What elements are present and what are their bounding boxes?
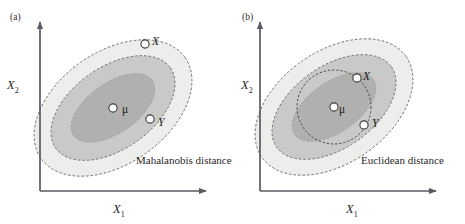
panel-a-tag: (a) bbox=[10, 13, 21, 23]
panel-b-plot bbox=[233, 0, 465, 224]
panel-a-plot bbox=[0, 0, 232, 224]
point-mu-a[interactable] bbox=[109, 104, 117, 112]
point-label-x-a: X bbox=[152, 36, 159, 48]
point-label-mu-a: μ bbox=[122, 104, 128, 116]
panel-b-caption: Euclidean distance bbox=[361, 155, 444, 166]
panel-a-x-axis-label: X1 bbox=[113, 203, 125, 216]
panel-b-y-axis-label: X2 bbox=[241, 79, 253, 92]
point-x-a[interactable] bbox=[141, 40, 149, 48]
panel-a-caption: Mahalanobis distance bbox=[136, 155, 232, 166]
panel-b-x-axis-label-sub: 1 bbox=[354, 210, 358, 219]
panel-b-y-axis-label-text: X bbox=[241, 78, 249, 92]
panel-a-x-axis-label-text: X bbox=[113, 202, 121, 216]
panel-a-y-axis-label: X2 bbox=[7, 79, 19, 92]
point-label-y-a: Y bbox=[158, 117, 164, 129]
panel-b-x-axis-label-text: X bbox=[346, 202, 354, 216]
panel-b-tag: (b) bbox=[242, 13, 253, 23]
panel-a-x-axis-label-sub: 1 bbox=[121, 210, 125, 219]
point-y-b[interactable] bbox=[360, 121, 368, 129]
panel-a-y-axis-label-sub: 2 bbox=[15, 86, 19, 95]
point-label-mu-b: μ bbox=[339, 104, 345, 116]
figure-mahalanobis-vs-euclidean: (a) X2 X1 X Y μ Mahalanobis distance bbox=[0, 0, 465, 224]
point-y-a[interactable] bbox=[146, 115, 154, 123]
point-mu-b[interactable] bbox=[330, 103, 338, 111]
point-x-b[interactable] bbox=[353, 74, 361, 82]
panel-a-y-axis-label-text: X bbox=[7, 78, 15, 92]
panel-b-euclidean: (b) X2 X1 X Y μ Euclidean distance bbox=[233, 0, 465, 224]
panel-a-mahalanobis: (a) X2 X1 X Y μ Mahalanobis distance bbox=[0, 0, 232, 224]
point-label-y-b: Y bbox=[372, 118, 378, 130]
point-label-x-b: X bbox=[363, 71, 370, 83]
panel-b-y-axis-label-sub: 2 bbox=[249, 86, 253, 95]
panel-b-x-axis-label: X1 bbox=[346, 203, 358, 216]
